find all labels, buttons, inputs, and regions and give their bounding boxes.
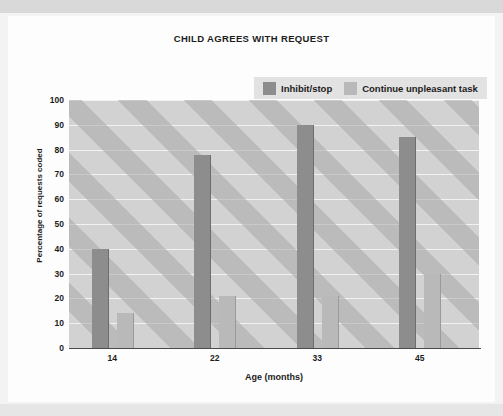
x-tick-label: 22	[185, 353, 245, 363]
plot-area	[69, 100, 479, 348]
legend-label: Continue unpleasant task	[362, 83, 478, 94]
y-tick-label: 70	[24, 169, 64, 179]
bar-group	[274, 100, 377, 348]
y-axis-tick-labels: 0102030405060708090100	[20, 100, 64, 348]
bar[interactable]	[194, 155, 211, 348]
bar-group	[377, 100, 480, 348]
legend-swatch-icon	[263, 82, 276, 95]
x-axis-tick-labels: 14223345	[69, 353, 479, 367]
chart-figure: CHILD AGREES WITH REQUEST Inhibit/stopCo…	[8, 16, 495, 402]
y-tick-label: 50	[24, 219, 64, 229]
bar[interactable]	[219, 296, 236, 348]
bar[interactable]	[322, 296, 339, 348]
bar[interactable]	[399, 137, 416, 348]
x-tick-label: 14	[82, 353, 142, 363]
legend-item[interactable]: Inhibit/stop	[263, 82, 332, 95]
y-tick-label: 20	[24, 293, 64, 303]
x-tick-label: 45	[390, 353, 450, 363]
y-tick-label: 80	[24, 145, 64, 155]
bars-layer	[69, 100, 479, 348]
bar-group	[69, 100, 172, 348]
bar[interactable]	[92, 249, 109, 348]
legend-item[interactable]: Continue unpleasant task	[344, 82, 478, 95]
x-axis-line	[69, 348, 481, 349]
page-top-band	[0, 0, 503, 13]
y-tick-label: 40	[24, 244, 64, 254]
y-tick-label: 30	[24, 269, 64, 279]
legend-label: Inhibit/stop	[281, 83, 332, 94]
bar[interactable]	[117, 313, 134, 348]
plot-area-wrapper	[69, 100, 479, 348]
y-tick-label: 10	[24, 318, 64, 328]
chart-legend: Inhibit/stopContinue unpleasant task	[254, 77, 487, 99]
chart-title: CHILD AGREES WITH REQUEST	[8, 33, 495, 44]
page-bottom-band	[0, 404, 503, 416]
scanned-page: CHILD AGREES WITH REQUEST Inhibit/stopCo…	[0, 0, 503, 416]
x-axis-title: Age (months)	[69, 372, 479, 382]
y-tick-label: 100	[24, 95, 64, 105]
bar-group	[172, 100, 275, 348]
y-tick-label: 60	[24, 194, 64, 204]
bar[interactable]	[424, 274, 441, 348]
legend-swatch-icon	[344, 82, 357, 95]
x-tick-label: 33	[287, 353, 347, 363]
y-tick-label: 0	[24, 343, 64, 353]
bar[interactable]	[297, 125, 314, 348]
y-tick-label: 90	[24, 120, 64, 130]
